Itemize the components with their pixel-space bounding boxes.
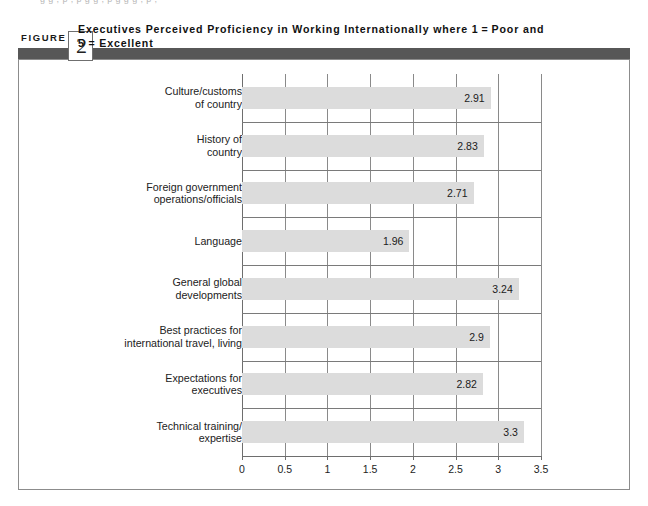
x-tick-label: 2 bbox=[393, 463, 433, 475]
gridline-3.5 bbox=[541, 74, 542, 456]
category-label: Culture/customsof country bbox=[42, 85, 242, 110]
x-tick bbox=[327, 456, 328, 460]
category-label-line: country bbox=[42, 146, 242, 159]
x-tick bbox=[242, 456, 243, 460]
category-label-line: Best practices for bbox=[42, 324, 242, 337]
category-label-line: Technical training/ bbox=[42, 420, 242, 433]
plot-area: 2.912.832.711.963.242.92.823.3 bbox=[242, 74, 541, 456]
category-label: Best practices forinternational travel, … bbox=[42, 324, 242, 349]
bar-value-label: 2.71 bbox=[242, 182, 468, 204]
x-tick-label: 1 bbox=[307, 463, 347, 475]
bar-value-label: 2.82 bbox=[242, 373, 477, 395]
row-separator bbox=[242, 408, 541, 409]
category-label-line: expertise bbox=[42, 432, 242, 445]
bar-value-label: 2.91 bbox=[242, 87, 485, 109]
x-tick bbox=[541, 456, 542, 460]
category-label-line: Foreign government bbox=[42, 181, 242, 194]
category-label-line: executives bbox=[42, 384, 242, 397]
figure-title-line-1: Executives Perceived Proficiency in Work… bbox=[78, 23, 544, 35]
x-tick-label: 1.5 bbox=[350, 463, 390, 475]
row-separator bbox=[242, 361, 541, 362]
category-label-line: Language bbox=[42, 235, 242, 248]
category-label-line: developments bbox=[42, 289, 242, 302]
bar-value-label: 3.3 bbox=[242, 421, 518, 443]
category-label-line: Expectations for bbox=[42, 372, 242, 385]
x-tick bbox=[370, 456, 371, 460]
category-label: Expectations forexecutives bbox=[42, 372, 242, 397]
row-separator bbox=[242, 122, 541, 123]
bar-value-label: 2.9 bbox=[242, 326, 484, 348]
bar-value-label: 2.83 bbox=[242, 135, 478, 157]
x-tick-label: 3 bbox=[478, 463, 518, 475]
figure-title: Executives Perceived Proficiency in Work… bbox=[78, 22, 623, 50]
category-label-line: operations/officials bbox=[42, 193, 242, 206]
category-label-line: Culture/customs bbox=[42, 85, 242, 98]
x-tick bbox=[456, 456, 457, 460]
figure-title-line-2: 5 = Excellent bbox=[78, 36, 623, 50]
category-label: History ofcountry bbox=[42, 133, 242, 158]
x-tick bbox=[413, 456, 414, 460]
row-separator bbox=[242, 217, 541, 218]
category-label-line: of country bbox=[42, 98, 242, 111]
x-tick-label: 0.5 bbox=[265, 463, 305, 475]
row-separator bbox=[242, 313, 541, 314]
figure-page: g g , p , p g g , p g g g , p , FIGURE 2… bbox=[0, 0, 648, 506]
category-axis-labels: Culture/customsof countryHistory ofcount… bbox=[36, 74, 242, 456]
bar-value-label: 1.96 bbox=[242, 230, 403, 252]
row-separator bbox=[242, 170, 541, 171]
row-separator bbox=[242, 265, 541, 266]
bar-chart: Culture/customsof countryHistory ofcount… bbox=[0, 0, 648, 506]
category-label: Foreign governmentoperations/officials bbox=[42, 181, 242, 206]
category-label: Language bbox=[42, 235, 242, 248]
x-tick-label: 0 bbox=[222, 463, 262, 475]
category-label-line: History of bbox=[42, 133, 242, 146]
x-axis-line bbox=[242, 456, 542, 457]
category-label: General globaldevelopments bbox=[42, 276, 242, 301]
x-tick-label: 3.5 bbox=[521, 463, 561, 475]
x-tick-label: 2.5 bbox=[436, 463, 476, 475]
category-label: Technical training/expertise bbox=[42, 420, 242, 445]
category-label-line: international travel, living bbox=[42, 337, 242, 350]
x-tick bbox=[498, 456, 499, 460]
x-tick bbox=[285, 456, 286, 460]
bar-value-label: 3.24 bbox=[242, 278, 513, 300]
category-label-line: General global bbox=[42, 276, 242, 289]
